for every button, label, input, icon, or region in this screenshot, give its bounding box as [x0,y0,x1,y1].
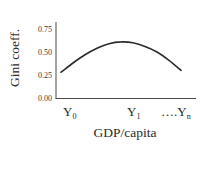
x-tick-label-y0: Y0 [63,104,76,121]
x-tick-labels: Y0 Y1 ….Yn [63,104,191,121]
gini-curve [61,42,181,72]
y-tick-label: 0.75 [38,25,52,34]
y-tick-labels: 0.75 0.50 0.25 0.00 [38,25,52,103]
y-tick-label: 0.25 [38,71,52,80]
x-tick-label-y1: Y1 [127,104,140,121]
x-tick-label-yn: ….Yn [161,104,191,121]
y-tick-label: 0.00 [38,94,52,103]
y-tick-label: 0.50 [38,48,52,57]
y-axis-label: Gini coeff. [7,29,22,87]
x-axis-label: GDP/capita [94,125,157,140]
kuznets-chart: Gini coeff. 0.75 0.50 0.25 0.00 Y0 Y1 ….… [0,0,218,170]
